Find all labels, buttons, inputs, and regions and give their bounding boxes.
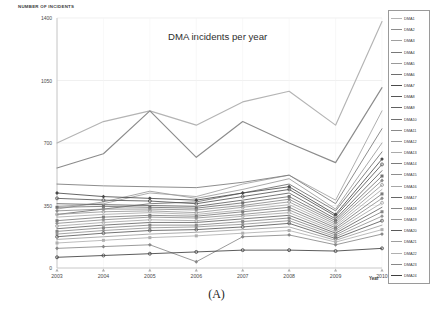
- legend-line-icon: [391, 174, 402, 175]
- legend-line-icon: [391, 152, 402, 153]
- legend-line-icon: [391, 85, 402, 86]
- legend-line-icon: [391, 107, 402, 108]
- legend-item[interactable]: DMA13: [391, 147, 428, 158]
- legend-line-icon: [391, 219, 402, 220]
- x-tick-label: 2003: [43, 273, 71, 279]
- legend-item[interactable]: DMA20: [391, 225, 428, 236]
- legend-line-icon: [391, 119, 402, 120]
- figure-caption: (A): [0, 287, 433, 302]
- legend-item-label: DMA3: [404, 35, 415, 46]
- legend-line-icon: [391, 230, 402, 231]
- legend-item[interactable]: DMA9: [391, 102, 428, 113]
- legend-item-label: DMA7: [404, 80, 415, 91]
- y-tick-label: 350: [24, 203, 52, 209]
- legend-item-label: DMA2: [404, 24, 415, 35]
- chart-legend: DMA1DMA2DMA3DMA4DMA5DMA6DMA7DMA8DMA9DMA1…: [388, 10, 430, 284]
- legend-item[interactable]: DMA11: [391, 125, 428, 136]
- legend-item-label: DMA4: [404, 47, 415, 58]
- legend-item[interactable]: DMA14: [391, 158, 428, 169]
- legend-line-icon: [391, 275, 402, 276]
- figure-panel: NUMBER OF INCIDENTS DMA incidents per ye…: [0, 0, 433, 312]
- chart-area: NUMBER OF INCIDENTS DMA incidents per ye…: [0, 0, 433, 286]
- legend-item-label: DMA14: [404, 158, 417, 169]
- legend-line-icon: [391, 141, 402, 142]
- legend-line-icon: [391, 74, 402, 75]
- legend-item[interactable]: DMA23: [391, 259, 428, 270]
- legend-item[interactable]: DMA12: [391, 136, 428, 147]
- series-layer: [55, 22, 384, 264]
- legend-line-icon: [391, 241, 402, 242]
- legend-item-label: DMA6: [404, 69, 415, 80]
- legend-line-icon: [391, 264, 402, 265]
- legend-line-icon: [391, 130, 402, 131]
- line-chart-plot: [0, 0, 433, 286]
- legend-item[interactable]: DMA5: [391, 58, 428, 69]
- legend-item[interactable]: DMA10: [391, 114, 428, 125]
- legend-item[interactable]: DMA16: [391, 181, 428, 192]
- legend-item-label: DMA17: [404, 192, 417, 203]
- legend-line-icon: [391, 253, 402, 254]
- legend-item[interactable]: DMA6: [391, 69, 428, 80]
- y-tick-label: 1050: [24, 78, 52, 84]
- legend-item-label: DMA16: [404, 181, 417, 192]
- legend-item-label: DMA19: [404, 214, 417, 225]
- legend-line-icon: [391, 96, 402, 97]
- x-tick-marks: [55, 269, 383, 272]
- legend-item-label: DMA22: [404, 248, 417, 259]
- legend-line-icon: [391, 52, 402, 53]
- x-tick-label: 2004: [89, 273, 117, 279]
- legend-item-label: DMA15: [404, 169, 417, 180]
- legend-item-label: DMA21: [404, 236, 417, 247]
- x-tick-label: 2008: [275, 273, 303, 279]
- legend-item[interactable]: DMA19: [391, 214, 428, 225]
- x-tick-label: 2007: [229, 273, 257, 279]
- legend-line-icon: [391, 186, 402, 187]
- legend-item[interactable]: DMA24: [391, 270, 428, 281]
- legend-item[interactable]: DMA7: [391, 80, 428, 91]
- y-tick-label: 0: [24, 265, 52, 271]
- legend-item-label: DMA9: [404, 102, 415, 113]
- legend-line-icon: [391, 40, 402, 41]
- legend-item-label: DMA10: [404, 114, 417, 125]
- legend-item[interactable]: DMA18: [391, 203, 428, 214]
- legend-item[interactable]: DMA22: [391, 248, 428, 259]
- legend-item-label: DMA12: [404, 136, 417, 147]
- legend-item[interactable]: DMA1: [391, 13, 428, 24]
- legend-item[interactable]: DMA3: [391, 35, 428, 46]
- legend-item-label: DMA20: [404, 225, 417, 236]
- legend-item[interactable]: DMA8: [391, 91, 428, 102]
- x-tick-label: 2009: [322, 273, 350, 279]
- legend-item-label: DMA23: [404, 259, 417, 270]
- legend-line-icon: [391, 29, 402, 30]
- legend-line-icon: [391, 163, 402, 164]
- legend-item-label: DMA13: [404, 147, 417, 158]
- legend-item[interactable]: DMA15: [391, 169, 428, 180]
- legend-line-icon: [391, 197, 402, 198]
- y-tick-label: 1400: [24, 15, 52, 21]
- x-tick-label: 2005: [136, 273, 164, 279]
- legend-item-label: DMA18: [404, 203, 417, 214]
- legend-item[interactable]: DMA17: [391, 192, 428, 203]
- x-tick-label: 2006: [182, 273, 210, 279]
- legend-item-label: DMA1: [404, 13, 415, 24]
- legend-item-label: DMA5: [404, 58, 415, 69]
- legend-line-icon: [391, 18, 402, 19]
- legend-item[interactable]: DMA2: [391, 24, 428, 35]
- legend-line-icon: [391, 63, 402, 64]
- legend-item[interactable]: DMA4: [391, 47, 428, 58]
- y-tick-label: 700: [24, 140, 52, 146]
- legend-item-label: DMA11: [404, 125, 416, 136]
- legend-line-icon: [391, 208, 402, 209]
- legend-item-label: DMA24: [404, 270, 417, 281]
- legend-item-label: DMA8: [404, 91, 415, 102]
- legend-item[interactable]: DMA21: [391, 236, 428, 247]
